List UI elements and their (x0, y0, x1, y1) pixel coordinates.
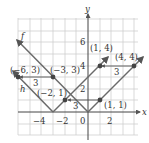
label-h: h (20, 84, 25, 94)
y-tick-6: 6 (80, 37, 85, 47)
point-label-1-1: (1, 1) (104, 100, 127, 110)
shift-label-1: 3 (33, 78, 38, 88)
y-axis-label: y (84, 4, 90, 14)
point-label-m6-3: (−6, 3) (10, 65, 40, 75)
point-label-m2-1: (−2, 1) (37, 88, 67, 98)
point-label-4-4: (4, 4) (115, 52, 138, 62)
x-tick-2: 2 (107, 116, 112, 126)
y-tick-4: 4 (80, 61, 85, 71)
shift-label-2: 3 (73, 101, 78, 111)
x-tick--4: −4 (33, 116, 46, 126)
label-f: f (20, 31, 26, 41)
point-label-m3-3: (−3, 3) (50, 65, 80, 75)
x-axis-label: x (142, 107, 147, 117)
x-tick--2: −2 (56, 116, 69, 126)
x-tick-0: 0 (80, 116, 85, 126)
shift-label-3: 3 (114, 67, 119, 77)
point-label-1-4: (1, 4) (90, 43, 113, 53)
y-tick-2: 2 (80, 84, 85, 94)
graph: x y −4 −2 0 2 2 4 6 3 3 3 (−6, 3) (−3, 3… (0, 0, 149, 143)
